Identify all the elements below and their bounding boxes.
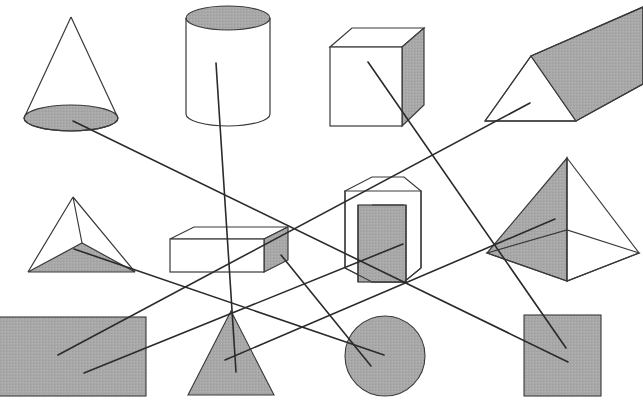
solid-square-pyramid[interactable] bbox=[487, 158, 639, 281]
cylinder-top-ellipse bbox=[186, 6, 270, 30]
connector-prism-to-rectangle[interactable] bbox=[58, 103, 530, 355]
cylinder-bottom-arc bbox=[186, 114, 270, 126]
solid-tetrahedron[interactable] bbox=[28, 197, 135, 272]
geometry-matching-worksheet: 2. bbox=[0, 0, 643, 402]
flat-shape-circle[interactable] bbox=[345, 316, 425, 396]
worksheet-canvas bbox=[0, 0, 643, 402]
cylinder-sides bbox=[186, 18, 270, 114]
connector-cone-to-square[interactable] bbox=[73, 121, 568, 362]
cone-sides bbox=[24, 17, 118, 118]
tetra-base-face bbox=[28, 243, 135, 272]
flat-shape-triangle[interactable] bbox=[188, 311, 274, 395]
solid-cube[interactable] bbox=[330, 28, 424, 126]
solid-cone[interactable] bbox=[24, 17, 118, 131]
cube-front-face bbox=[330, 47, 402, 126]
solid-cylinder[interactable] bbox=[186, 6, 270, 126]
sqpyramid-right-face bbox=[567, 158, 639, 281]
solid-triangular-prism[interactable] bbox=[485, 7, 643, 121]
hexprism-front-face bbox=[358, 205, 406, 282]
flat-shape-square[interactable] bbox=[524, 315, 601, 396]
cuboid-front-face bbox=[170, 239, 264, 272]
solid-hexagonal-prism[interactable] bbox=[345, 177, 421, 282]
